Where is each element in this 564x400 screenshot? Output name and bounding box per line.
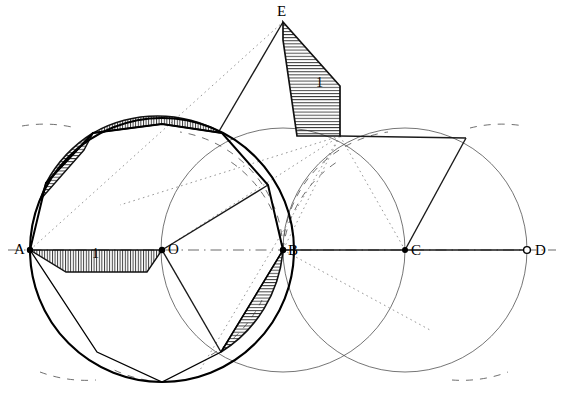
geometry-figure: A O B C D E 1 1 [0,0,564,400]
ray-E-base-to-C [340,136,405,250]
ray-A-to-E [30,22,283,250]
point-label-E: E [277,4,286,19]
chord-O-to-lower [162,250,221,352]
chord-rightnode-to-C [405,138,466,250]
marker-A [27,247,33,253]
measure-label-unit-base: 1 [92,247,99,261]
hatched-regions [30,22,340,352]
chord-Ebase-to-right-node [340,136,466,138]
chord-E-to-polygon [218,22,283,133]
marker-B [280,247,286,253]
measure-label-unit-slant: 1 [316,76,323,90]
point-label-B: B [288,243,298,258]
ray-Ebase-to-lowleft [200,136,340,370]
band-slant-E [283,22,340,136]
point-label-D: D [535,243,546,258]
ray-Ebase-to-left [120,136,340,205]
figure-canvas [0,0,564,400]
ray-lower-right [283,250,430,330]
dotted-construction-rays [30,22,430,370]
point-label-O: O [168,242,179,257]
marker-O [159,247,165,253]
marker-D [524,247,531,254]
point-label-C: C [411,243,421,258]
marker-C [402,247,408,253]
point-label-A: A [14,242,25,257]
